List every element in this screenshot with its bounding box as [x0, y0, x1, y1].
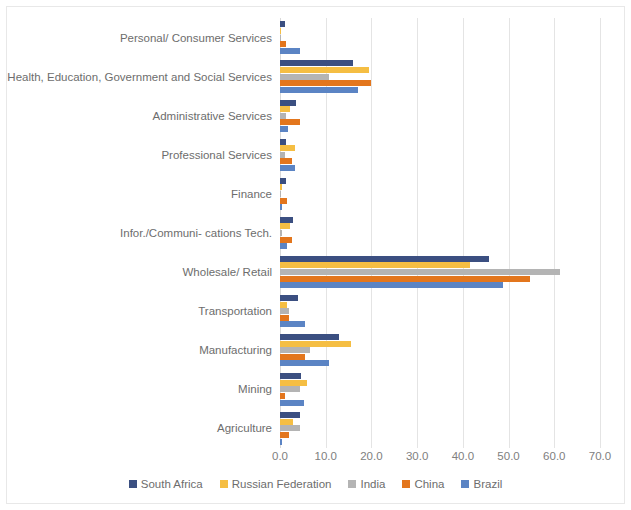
bar-china[interactable]: [280, 276, 530, 282]
bar-india[interactable]: [280, 74, 329, 80]
bar-group: [280, 139, 600, 171]
bar-south-africa[interactable]: [280, 60, 353, 66]
bar-china[interactable]: [280, 119, 300, 125]
bar-russian-federation[interactable]: [280, 302, 287, 308]
bar-chart-figure: Personal/ Consumer ServicesHealth, Educa…: [0, 0, 631, 510]
bar-india[interactable]: [280, 269, 560, 275]
x-tick-label: 20.0: [360, 450, 382, 462]
category-label: Administrative Services: [152, 110, 272, 122]
bar-russian-federation[interactable]: [280, 223, 290, 229]
bar-russian-federation[interactable]: [280, 184, 282, 190]
bar-group: [280, 178, 600, 210]
legend-label: Brazil: [473, 478, 502, 490]
bar-china[interactable]: [280, 432, 289, 438]
bar-china[interactable]: [280, 198, 287, 204]
legend-swatch-icon: [220, 480, 228, 488]
gridline-70: [600, 18, 601, 448]
x-tick-label: 50.0: [497, 450, 519, 462]
bar-china[interactable]: [280, 354, 305, 360]
bar-russian-federation[interactable]: [280, 28, 281, 34]
bar-russian-federation[interactable]: [280, 262, 470, 268]
legend-label: India: [360, 478, 385, 490]
bar-russian-federation[interactable]: [280, 145, 295, 151]
x-tick-label: 40.0: [452, 450, 474, 462]
x-axis-labels: 0.010.020.030.040.050.060.070.0: [280, 450, 600, 468]
bar-group: [280, 21, 600, 53]
bar-china[interactable]: [280, 80, 371, 86]
bar-brazil[interactable]: [280, 48, 300, 54]
legend-swatch-icon: [129, 480, 137, 488]
bar-south-africa[interactable]: [280, 100, 296, 106]
bar-india[interactable]: [280, 230, 282, 236]
x-tick-label: 10.0: [315, 450, 337, 462]
bar-group: [280, 412, 600, 444]
bar-russian-federation[interactable]: [280, 106, 290, 112]
bar-south-africa[interactable]: [280, 373, 301, 379]
bar-south-africa[interactable]: [280, 256, 489, 262]
bar-south-africa[interactable]: [280, 217, 293, 223]
bar-south-africa[interactable]: [280, 295, 298, 301]
legend-label: Russian Federation: [232, 478, 332, 490]
bar-brazil[interactable]: [280, 400, 304, 406]
bar-china[interactable]: [280, 393, 285, 399]
bar-group: [280, 60, 600, 92]
legend-item-china[interactable]: China: [402, 478, 444, 490]
bar-group: [280, 373, 600, 405]
bar-group: [280, 217, 600, 249]
x-tick-label: 70.0: [589, 450, 611, 462]
category-label: Mining: [238, 383, 272, 395]
bar-russian-federation[interactable]: [280, 341, 351, 347]
x-tick-label: 0.0: [272, 450, 288, 462]
bar-china[interactable]: [280, 315, 289, 321]
bar-india[interactable]: [280, 152, 285, 158]
legend-label: China: [414, 478, 444, 490]
bar-russian-federation[interactable]: [280, 380, 307, 386]
bar-south-africa[interactable]: [280, 412, 300, 418]
category-label: Personal/ Consumer Services: [120, 32, 272, 44]
legend-item-brazil[interactable]: Brazil: [461, 478, 502, 490]
bar-brazil[interactable]: [280, 87, 358, 93]
legend-swatch-icon: [461, 480, 469, 488]
bar-india[interactable]: [280, 35, 281, 41]
bar-india[interactable]: [280, 386, 300, 392]
category-label: Infor./Communi- cations Tech.: [120, 227, 272, 239]
bar-brazil[interactable]: [280, 165, 295, 171]
bar-china[interactable]: [280, 237, 292, 243]
bar-brazil[interactable]: [280, 282, 503, 288]
bar-india[interactable]: [280, 347, 310, 353]
bar-south-africa[interactable]: [280, 334, 339, 340]
bar-brazil[interactable]: [280, 126, 288, 132]
legend-item-south-africa[interactable]: South Africa: [129, 478, 203, 490]
bar-india[interactable]: [280, 113, 286, 119]
bar-brazil[interactable]: [280, 439, 282, 445]
category-label: Finance: [231, 188, 272, 200]
bar-south-africa[interactable]: [280, 139, 286, 145]
bar-brazil[interactable]: [280, 204, 282, 210]
bar-china[interactable]: [280, 158, 292, 164]
x-tick-label: 60.0: [543, 450, 565, 462]
bar-group: [280, 256, 600, 288]
legend-swatch-icon: [348, 480, 356, 488]
bar-russian-federation[interactable]: [280, 419, 293, 425]
legend-item-india[interactable]: India: [348, 478, 385, 490]
bar-south-africa[interactable]: [280, 21, 285, 27]
category-label: Transportation: [198, 305, 272, 317]
bar-brazil[interactable]: [280, 321, 305, 327]
bar-south-africa[interactable]: [280, 178, 286, 184]
bar-group: [280, 100, 600, 132]
bar-group: [280, 295, 600, 327]
legend-item-russian-federation[interactable]: Russian Federation: [220, 478, 332, 490]
bar-groups: [280, 18, 600, 448]
bar-india[interactable]: [280, 425, 300, 431]
bar-china[interactable]: [280, 41, 286, 47]
bar-india[interactable]: [280, 308, 289, 314]
category-label: Professional Services: [161, 149, 272, 161]
bar-brazil[interactable]: [280, 243, 287, 249]
bar-russian-federation[interactable]: [280, 67, 369, 73]
plot-area: [280, 18, 600, 448]
category-label: Agriculture: [217, 422, 272, 434]
legend-label: South Africa: [141, 478, 203, 490]
bar-brazil[interactable]: [280, 360, 329, 366]
legend-swatch-icon: [402, 480, 410, 488]
bar-india[interactable]: [280, 191, 281, 197]
